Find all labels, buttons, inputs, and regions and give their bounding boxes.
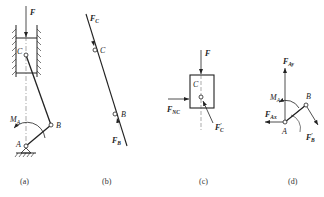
label-f: F [204,49,211,58]
label-moment: MA [9,115,21,125]
label-b: B [121,110,126,119]
force-fb-prime-arrow [307,107,318,125]
label-a: A [15,140,21,149]
label-f: F [29,8,36,17]
label-c: C [193,80,199,89]
joint-c [199,95,203,99]
moment-arc-ext [291,115,301,132]
moment-arrow [279,100,299,108]
caption-b: (b) [102,177,112,186]
label-b: B [56,121,61,130]
caption-a: (a) [20,177,29,186]
mechanics-figure: F C B MA A (a) C FC B FB (b) [0,0,324,197]
label-fay: FAy [282,57,295,67]
joint-c [93,48,97,52]
joint-b [113,112,117,116]
label-fnc: FNC [166,105,180,115]
label-c: C [17,47,23,56]
label-c: C [100,46,106,55]
joint-b [304,103,308,107]
label-moment: MA [269,93,281,103]
panel-c: F C FNC F′C (c) [166,49,224,186]
connecting-rod [26,55,51,125]
pin-support [21,148,31,153]
label-fc: FC [89,14,99,24]
joint-a [283,120,287,124]
caption-c: (c) [199,177,208,186]
label-b: B [306,92,311,101]
pin-a [24,144,28,148]
joint-c [24,53,28,57]
joint-b [49,123,53,127]
label-fb: FB [111,136,121,146]
label-fc-prime: F′C [214,122,224,133]
panel-a: F C B MA A (a) [9,6,61,186]
crank [26,125,51,146]
label-a: A [281,127,287,136]
label-fb-prime: F′B [305,132,315,143]
force-fc-prime-arrow [203,101,213,123]
panel-d: FAy FAx MA A B F′B (d) [264,57,318,186]
panel-b: C FC B FB (b) [86,14,127,186]
caption-d: (d) [288,177,298,186]
label-fax: FAx [264,110,277,120]
two-force-member [86,14,127,146]
